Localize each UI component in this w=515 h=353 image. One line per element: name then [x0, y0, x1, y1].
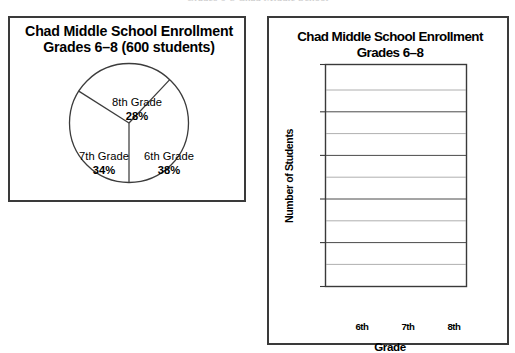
pie-slice-name-8th-grade: 8th Grade	[98, 96, 176, 110]
pie-slice-label-7th-grade: 7th Grade 34%	[73, 150, 135, 177]
pie-slice-name-6th-grade: 6th Grade	[138, 150, 200, 164]
x-tick-label-7th: 7th	[388, 321, 428, 332]
page-caption: Grades 6-8 Chad Middle School	[0, 0, 515, 3]
pie-slice-percent-6th-grade: 38%	[138, 164, 200, 178]
bar-chart-title-line2: Grades 6–8	[269, 45, 511, 61]
pie-slice-name-7th-grade: 7th Grade	[73, 150, 135, 164]
x-tick-label-6th: 6th	[342, 321, 382, 332]
pie-chart-panel: Chad Middle School Enrollment Grades 6–8…	[8, 16, 246, 202]
x-axis-title: Grade	[269, 340, 511, 353]
pie-slice-label-6th-grade: 6th Grade 38%	[138, 150, 200, 177]
pie-chart-title: Chad Middle School Enrollment Grades 6–8…	[10, 23, 248, 55]
pie-slice-percent-8th-grade: 28%	[98, 110, 176, 124]
bar-chart-title-line1: Chad Middle School Enrollment	[297, 29, 483, 44]
y-axis-title: Number of Students	[283, 106, 295, 246]
pie-chart-title-line1: Chad Middle School Enrollment	[25, 23, 233, 39]
pie-slice-percent-7th-grade: 34%	[73, 164, 135, 178]
x-axis-tick-labels: 6th 7th 8th	[269, 321, 511, 335]
bar-chart-plot-area	[294, 60, 472, 292]
pie-slice-label-8th-grade: 8th Grade 28%	[98, 96, 176, 123]
x-tick-label-8th: 8th	[434, 321, 474, 332]
plot-frame	[326, 65, 467, 287]
bar-chart-title: Chad Middle School Enrollment Grades 6–8	[269, 29, 511, 60]
pie-chart-title-line2: Grades 6–8 (600 students)	[10, 39, 248, 55]
bar-chart-panel: Chad Middle School Enrollment Grades 6–8…	[267, 16, 509, 345]
